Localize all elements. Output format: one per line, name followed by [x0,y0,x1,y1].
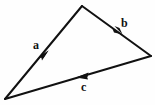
vector-label-b: b [121,17,128,29]
vector-triangle-figure: a b c [0,0,155,105]
vector-label-c: c [81,81,86,93]
triangle-diagram-canvas [0,0,155,105]
vector-label-a: a [33,39,39,51]
edge-a-line [5,6,82,99]
